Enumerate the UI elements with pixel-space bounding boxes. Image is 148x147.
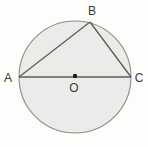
label-a: A (4, 71, 12, 85)
label-c: C (135, 71, 144, 85)
circle-triangle-diagram: A B C O (0, 0, 148, 147)
center-dot (73, 74, 77, 78)
label-b: B (88, 4, 96, 18)
geometry-figure: A B C O (0, 0, 148, 147)
label-center-o: O (69, 81, 78, 95)
